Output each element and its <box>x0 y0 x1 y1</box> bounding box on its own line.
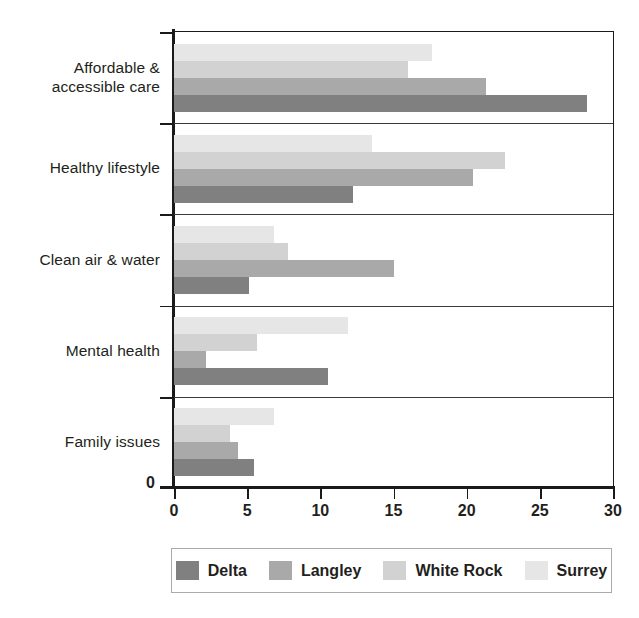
x-tick-label: 5 <box>227 502 267 520</box>
x-tick-label: 20 <box>447 502 487 520</box>
x-tick-mark <box>247 488 249 499</box>
legend-swatch-icon <box>383 561 406 580</box>
x-tick-label: 10 <box>300 502 340 520</box>
bar-chart: Affordable &accessible careHealthy lifes… <box>0 0 639 618</box>
legend-swatch-icon <box>176 561 199 580</box>
x-tick-mark <box>613 488 615 499</box>
x-tick-mark <box>394 488 396 499</box>
legend-label: Delta <box>208 562 247 580</box>
legend-swatch-icon <box>525 561 548 580</box>
y-origin-label: 0 <box>146 474 155 492</box>
x-axis-ticks: 051015202530 <box>0 0 639 618</box>
legend-item: White Rock <box>383 561 502 580</box>
legend-item: Langley <box>269 561 361 580</box>
chart-legend: DeltaLangleyWhite RockSurrey <box>171 548 612 593</box>
legend-label: Surrey <box>557 562 608 580</box>
x-tick-mark <box>320 488 322 499</box>
x-tick-mark <box>467 488 469 499</box>
x-tick-mark <box>174 488 176 499</box>
legend-item: Delta <box>176 561 247 580</box>
x-tick-label: 30 <box>593 502 633 520</box>
x-tick-label: 15 <box>374 502 414 520</box>
x-tick-mark <box>540 488 542 499</box>
legend-item: Surrey <box>525 561 608 580</box>
x-tick-label: 0 <box>154 502 194 520</box>
legend-label: White Rock <box>415 562 502 580</box>
legend-label: Langley <box>301 562 361 580</box>
x-tick-label: 25 <box>520 502 560 520</box>
legend-swatch-icon <box>269 561 292 580</box>
